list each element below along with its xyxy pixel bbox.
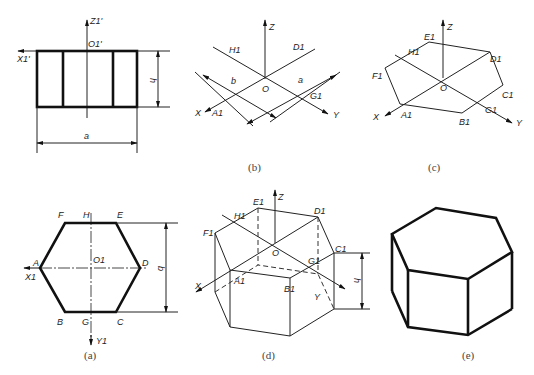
label-d: D bbox=[142, 258, 149, 268]
label-d1: D1 bbox=[293, 42, 305, 52]
label-e: E bbox=[117, 210, 124, 220]
label-o: O bbox=[440, 83, 447, 93]
label-g1: G1 bbox=[310, 91, 322, 101]
caption-b: (b) bbox=[248, 161, 261, 174]
front-view: Z1' O1' X1' h a bbox=[16, 16, 170, 153]
label-f1: F1 bbox=[203, 228, 214, 238]
prism-bottom-edges bbox=[392, 291, 512, 335]
label-h: h bbox=[148, 78, 158, 83]
prism-top-face bbox=[392, 208, 512, 279]
label-a1: A1 bbox=[211, 108, 223, 118]
label-b: b bbox=[231, 76, 236, 86]
label-y1: Y1 bbox=[96, 336, 107, 346]
label-x: X bbox=[372, 112, 380, 122]
caption-c: (c) bbox=[428, 161, 441, 174]
caption-e: (e) bbox=[462, 349, 475, 362]
label-z1: Z1' bbox=[89, 16, 103, 26]
label-a1: A1 bbox=[400, 110, 412, 120]
label-g1: G1 bbox=[485, 105, 497, 115]
hexagonal-prism-figure: Z1' O1' X1' h a Z H1 D1 b a O G1 X A1 Y … bbox=[0, 0, 534, 375]
label-x: X bbox=[194, 281, 202, 291]
label-x1: X1 bbox=[24, 272, 36, 282]
line-through-g1 bbox=[270, 72, 340, 122]
label-f1: F1 bbox=[372, 71, 383, 81]
label-f: F bbox=[58, 210, 64, 220]
a-dimension bbox=[247, 75, 336, 124]
label-a1: A1 bbox=[233, 276, 245, 286]
label-a: a bbox=[84, 131, 89, 141]
label-y: Y bbox=[314, 292, 321, 302]
x-axis bbox=[385, 52, 490, 116]
label-d1: D1 bbox=[490, 54, 502, 64]
label-o: O bbox=[262, 84, 269, 94]
label-b1: B1 bbox=[459, 117, 470, 127]
panel-a: F H E A O1 D X1 b B G C Y1 (a) bbox=[24, 210, 178, 362]
label-z: Z bbox=[277, 192, 284, 202]
label-b-vertex: B bbox=[57, 317, 63, 327]
panel-b: Z H1 D1 b a O G1 X A1 Y (b) bbox=[194, 20, 340, 174]
label-g: G bbox=[82, 317, 89, 327]
label-a: a bbox=[298, 75, 303, 85]
label-h: h bbox=[352, 278, 362, 283]
label-z: Z bbox=[268, 22, 275, 32]
caption-d: (d) bbox=[262, 349, 275, 362]
label-h: H bbox=[83, 210, 90, 220]
label-c1: C1 bbox=[502, 90, 514, 100]
label-x1: X1' bbox=[16, 54, 30, 64]
label-y: Y bbox=[516, 118, 523, 128]
label-b1: B1 bbox=[284, 284, 295, 294]
label-h1: H1 bbox=[408, 47, 420, 57]
label-h1: H1 bbox=[234, 211, 246, 221]
label-c: C bbox=[117, 317, 124, 327]
label-b: b bbox=[156, 266, 166, 271]
panel-c: Z E1 H1 D1 F1 O C1 G1 X A1 B1 Y (c) bbox=[372, 20, 523, 174]
label-z: Z bbox=[446, 22, 453, 32]
iso-hexagon bbox=[385, 42, 503, 113]
label-d1: D1 bbox=[314, 206, 326, 216]
label-c1: C1 bbox=[335, 244, 347, 254]
label-x: X bbox=[194, 108, 202, 118]
label-g1: G1 bbox=[308, 256, 320, 266]
label-o1: O1' bbox=[88, 39, 102, 49]
x-axis bbox=[196, 217, 318, 292]
panel-e: (e) bbox=[392, 208, 512, 362]
label-e1: E1 bbox=[253, 197, 264, 207]
label-e1: E1 bbox=[424, 32, 435, 42]
label-o1: O1 bbox=[93, 255, 105, 265]
label-h1: H1 bbox=[229, 45, 241, 55]
label-y: Y bbox=[333, 110, 340, 120]
hexagon-top-view bbox=[40, 223, 140, 312]
caption-a: (a) bbox=[84, 349, 97, 362]
label-o: O bbox=[272, 248, 279, 258]
panel-d: Z E1 H1 D1 F1 O C1 G1 X A1 B1 Y h (d) bbox=[194, 190, 370, 362]
label-a: A bbox=[32, 258, 39, 268]
